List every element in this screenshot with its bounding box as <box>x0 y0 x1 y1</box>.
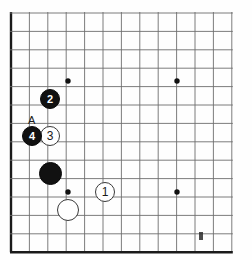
stone-black-4-label: 4 <box>29 131 35 142</box>
point-label-a: A <box>28 115 35 126</box>
stone-black-2-label: 2 <box>47 94 53 105</box>
stone-white-plain[interactable] <box>57 199 79 221</box>
stone-black-plain[interactable] <box>39 162 62 185</box>
stone-white-3[interactable]: 3 <box>40 126 60 146</box>
star-point-upper-right <box>174 78 179 83</box>
go-diagram: 1234A <box>0 0 252 260</box>
stone-black-2[interactable]: 2 <box>40 89 60 109</box>
stone-black-4[interactable]: 4 <box>22 126 42 146</box>
star-point-lower-right <box>174 189 179 194</box>
scan-artifact-smudge <box>199 232 203 240</box>
stone-white-1[interactable]: 1 <box>95 182 115 202</box>
stone-white-1-label: 1 <box>102 186 109 198</box>
star-point-upper-left <box>65 78 70 83</box>
stone-white-3-label: 3 <box>47 130 54 142</box>
star-point-lower-left <box>65 189 70 194</box>
